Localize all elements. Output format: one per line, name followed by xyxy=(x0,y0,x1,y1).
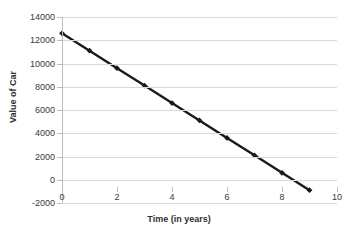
x-tick-label: 10 xyxy=(325,193,349,202)
x-tick-label: 8 xyxy=(270,193,294,202)
gridline xyxy=(62,133,337,134)
y-tick-mark xyxy=(57,203,62,204)
y-tick-mark xyxy=(57,87,62,88)
y-axis-line xyxy=(62,17,63,203)
chart-container: -200002000400060008000100001200014000 02… xyxy=(0,0,358,239)
y-tick-label: 8000 xyxy=(35,83,55,92)
y-tick-mark xyxy=(57,133,62,134)
gridline xyxy=(62,64,337,65)
y-tick-label: 4000 xyxy=(35,129,55,138)
y-tick-mark xyxy=(57,180,62,181)
y-tick-mark xyxy=(57,64,62,65)
y-tick-label: 10000 xyxy=(30,60,55,69)
y-tick-mark xyxy=(57,157,62,158)
y-tick-label: 14000 xyxy=(30,13,55,22)
y-tick-mark xyxy=(57,40,62,41)
x-tick-label: 2 xyxy=(105,193,129,202)
gridline xyxy=(62,180,337,181)
x-tick-label: 4 xyxy=(160,193,184,202)
y-tick-label: 12000 xyxy=(30,36,55,45)
gridline xyxy=(62,110,337,111)
y-axis-title: Value of Car xyxy=(8,57,18,137)
y-tick-label: 0 xyxy=(50,176,55,185)
plot-area xyxy=(62,17,337,203)
x-axis-title: Time (in years) xyxy=(0,214,358,224)
y-tick-mark xyxy=(57,110,62,111)
y-tick-label: 6000 xyxy=(35,106,55,115)
gridline xyxy=(62,203,337,204)
x-tick-label: 6 xyxy=(215,193,239,202)
y-tick-label: 2000 xyxy=(35,153,55,162)
gridline xyxy=(62,40,337,41)
line-path xyxy=(62,33,310,190)
x-tick-label: 0 xyxy=(50,193,74,202)
gridline xyxy=(62,17,337,18)
gridline xyxy=(62,157,337,158)
gridline xyxy=(62,87,337,88)
y-tick-mark xyxy=(57,17,62,18)
